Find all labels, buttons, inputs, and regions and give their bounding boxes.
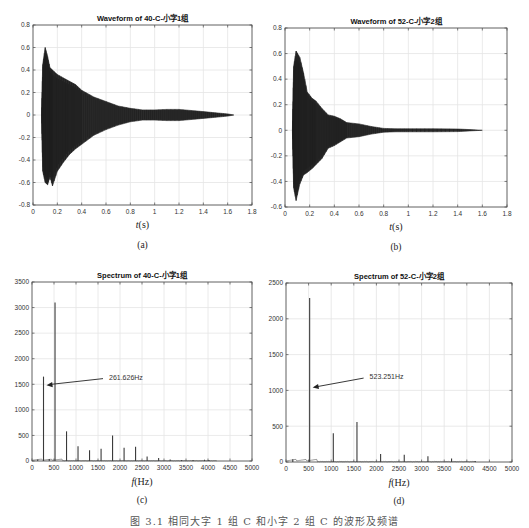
x-tick-label: 500 [303, 465, 314, 472]
x-tick-label: 1000 [324, 465, 339, 472]
arrow-head-icon [313, 384, 319, 389]
x-tick-label: 2000 [369, 465, 384, 472]
peak-annotation: 523.251Hz [313, 373, 404, 389]
y-tick-label: 0 [279, 458, 283, 465]
x-tick-label: 3500 [437, 465, 452, 472]
figure-caption: 图 3.1 相同大字 1 组 C 和小字 2 组 C 的波形及频谱 [0, 513, 529, 528]
annotation-label: 523.251Hz [370, 373, 404, 380]
x-tick-label: 4000 [460, 465, 475, 472]
x-tick-label: 1500 [347, 465, 362, 472]
x-tick-label: 2500 [392, 465, 407, 472]
x-tick-label: 4500 [482, 465, 497, 472]
y-tick-label: 2000 [269, 315, 284, 322]
y-tick-label: 1500 [269, 351, 284, 358]
x-tick-label: 0 [284, 465, 288, 472]
x-tick-label: 3000 [414, 465, 429, 472]
y-tick-label: 500 [272, 423, 283, 430]
subfigure-label: (d) [393, 496, 404, 507]
y-tick-label: 2500 [269, 279, 284, 286]
x-tick-label: 5000 [505, 465, 520, 472]
y-tick-label: 1000 [269, 387, 284, 394]
x-axis-label: f(Hz) [388, 477, 409, 489]
chart-title: Spectrum of 52-C-小字2组 [354, 271, 445, 281]
